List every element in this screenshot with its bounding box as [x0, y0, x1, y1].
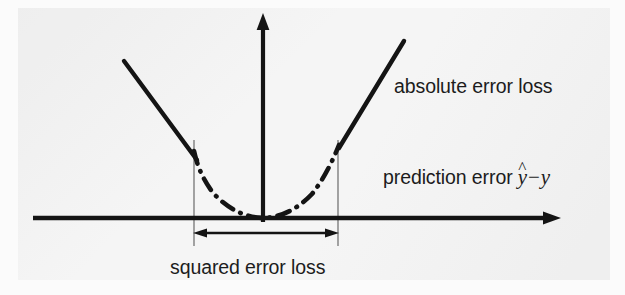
x-axis-arrowhead-icon — [543, 211, 561, 224]
loss-function-figure: absolute error loss prediction error ^y−… — [0, 0, 625, 295]
loss-plot-canvas — [0, 0, 625, 295]
prediction-error-formula: ^y−y — [513, 165, 550, 189]
absolute-error-loss-label: absolute error loss — [394, 77, 553, 97]
prediction-error-text: prediction error — [383, 166, 513, 188]
y-axis-arrowhead-icon — [257, 13, 270, 30]
squared-loss-curve — [194, 145, 339, 218]
absolute-loss-left-arm — [124, 61, 197, 160]
prediction-error-axis-label: prediction error ^y−y — [383, 167, 550, 188]
extent-arrowhead-left-icon — [193, 228, 207, 237]
minus-sign: − — [527, 165, 541, 189]
extent-arrowhead-right-icon — [325, 228, 339, 237]
y-hat-symbol: ^y — [518, 167, 527, 188]
y-letter: y — [541, 165, 550, 189]
hat-accent-icon: ^ — [518, 159, 526, 176]
squared-error-loss-label: squared error loss — [170, 258, 325, 278]
